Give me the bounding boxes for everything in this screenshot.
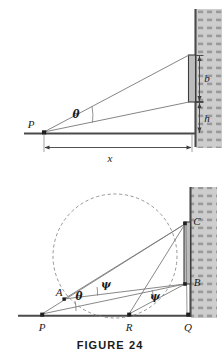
upper-screen-board [189, 55, 196, 102]
figure-24-svg: P θ b h x [0, 0, 224, 362]
upper-theta-arc [92, 107, 93, 123]
lower-theta-arc [75, 301, 76, 311]
lower-label-q: Q [184, 321, 192, 333]
upper-point-p-marker [42, 130, 46, 134]
lower-point-c-marker [183, 222, 187, 226]
upper-x-arrow-left [45, 145, 50, 149]
upper-x-arrow-right [187, 145, 192, 149]
lower-label-theta: θ [75, 290, 82, 302]
lower-label-p: P [38, 321, 46, 333]
upper-label-x: x [107, 152, 113, 164]
lower-psi-upper-arc [97, 287, 98, 296]
lower-label-r: R [125, 321, 133, 333]
lower-label-c: C [193, 215, 201, 227]
lower-screen-board [184, 222, 191, 284]
lower-point-q-marker [186, 313, 190, 317]
upper-label-b: b [204, 72, 210, 84]
lower-point-b-marker [183, 282, 187, 286]
lower-label-b: B [194, 276, 201, 288]
upper-label-h: h [204, 112, 210, 124]
lower-label-a: A [55, 286, 63, 298]
upper-sightline-top [44, 55, 189, 132]
upper-sightline-bottom [44, 102, 189, 132]
upper-diagram-group: P θ b h x [24, 9, 222, 164]
upper-label-p: P [27, 118, 35, 130]
lower-point-p-marker [40, 313, 44, 317]
upper-label-theta: θ [72, 108, 79, 120]
lower-label-psi-lower: ψ [150, 290, 161, 302]
lower-diagram-group: P R Q A B C θ ψ ψ [18, 187, 217, 333]
lower-wall-hatching [191, 187, 217, 318]
lower-point-r-marker [127, 313, 131, 317]
lower-label-psi-upper: ψ [101, 278, 112, 290]
lower-point-a-marker [62, 297, 65, 300]
figure-24-container: P θ b h x [0, 0, 224, 362]
figure-caption: FIGURE 24 [77, 339, 144, 351]
